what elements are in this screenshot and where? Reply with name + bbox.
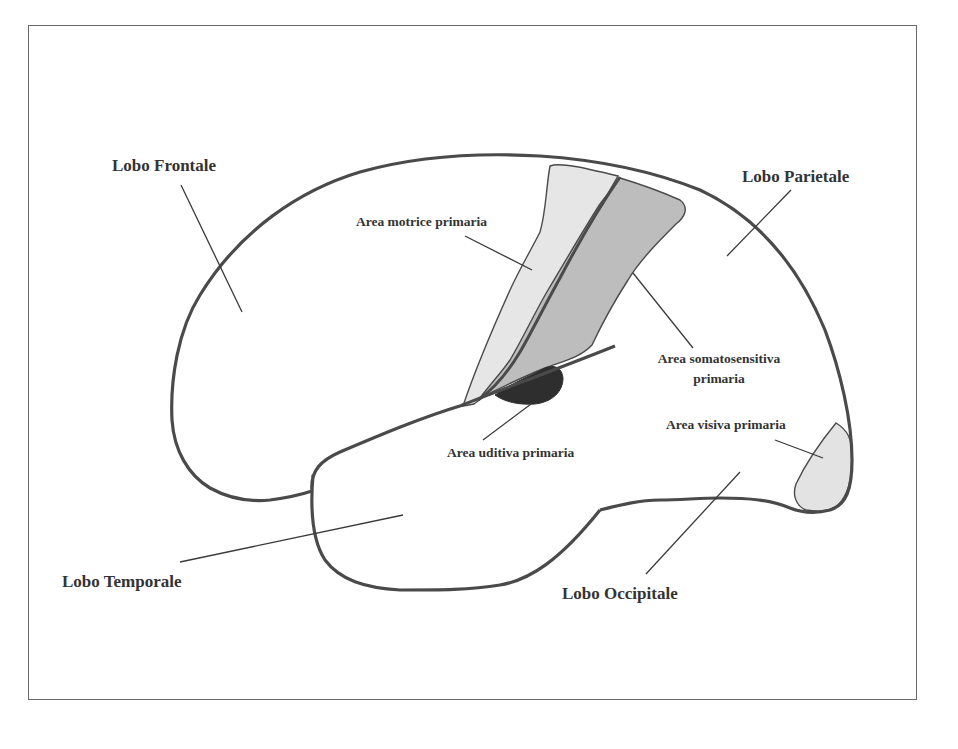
label-somatosensitiva-line1: Area somatosensitiva bbox=[629, 352, 809, 366]
label-lobo-temporale: Lobo Temporale bbox=[62, 573, 182, 590]
leader-line-auditory bbox=[483, 404, 531, 440]
temporal-lobe-outline bbox=[312, 405, 600, 590]
label-somatosensitiva-line2: primaria bbox=[629, 372, 809, 386]
frontal-lower-outline bbox=[172, 420, 312, 501]
label-lobo-parietale: Lobo Parietale bbox=[742, 168, 849, 185]
leader-line-frontal bbox=[181, 185, 242, 312]
label-area-motrice-primaria: Area motrice primaria bbox=[356, 215, 487, 229]
label-lobo-frontale: Lobo Frontale bbox=[112, 157, 216, 174]
label-area-uditiva-primaria: Area uditiva primaria bbox=[447, 446, 574, 460]
label-area-visiva-primaria: Area visiva primaria bbox=[666, 418, 786, 432]
label-area-somatosensitiva-primaria: Area somatosensitiva primaria bbox=[629, 352, 809, 385]
brain-diagram bbox=[0, 0, 958, 749]
leader-line-motor bbox=[465, 236, 532, 270]
leader-line-parietal bbox=[727, 190, 791, 256]
leader-line-occipital bbox=[646, 472, 740, 574]
label-lobo-occipitale: Lobo Occipitale bbox=[562, 585, 678, 602]
leader-line-somatosensory bbox=[633, 273, 693, 348]
leader-line-temporal bbox=[180, 515, 403, 562]
